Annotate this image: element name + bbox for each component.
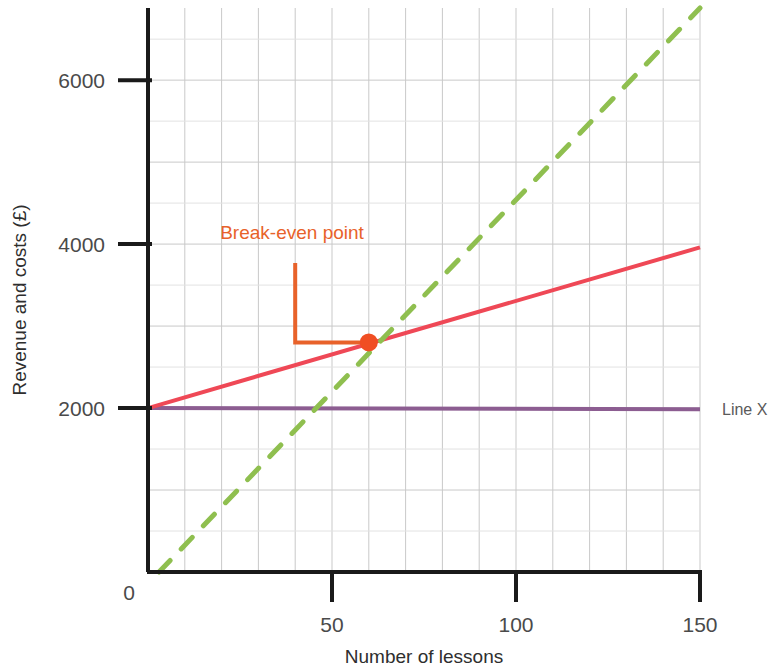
x-tick-label: 100: [498, 613, 533, 636]
break-even-point-label: Break-even point: [220, 222, 364, 243]
x-tick-label: 150: [682, 613, 717, 636]
break-even-chart: 200040006000 50100150 0 Break-even point…: [0, 0, 780, 671]
y-tick-label: 6000: [58, 69, 105, 92]
y-tick-label: 4000: [58, 233, 105, 256]
break-even-marker-dot: [360, 333, 378, 351]
y-axis-tick-labels: 200040006000: [58, 69, 105, 420]
series-label-line-x: Line X: [722, 401, 768, 418]
x-axis-tick-labels: 50100150: [320, 613, 717, 636]
series-inline-labels: Line X: [722, 401, 768, 418]
x-axis-title: Number of lessons: [345, 646, 503, 667]
plot-background: [148, 8, 700, 572]
x-axis-ticks: [332, 570, 700, 602]
y-tick-label: 2000: [58, 397, 105, 420]
origin-tick-label: 0: [123, 581, 135, 604]
x-tick-label: 50: [320, 613, 343, 636]
chart-canvas: 200040006000 50100150 0 Break-even point…: [0, 0, 780, 671]
series-line-line-x: [148, 408, 700, 409]
y-axis-title: Revenue and costs (£): [9, 204, 30, 395]
